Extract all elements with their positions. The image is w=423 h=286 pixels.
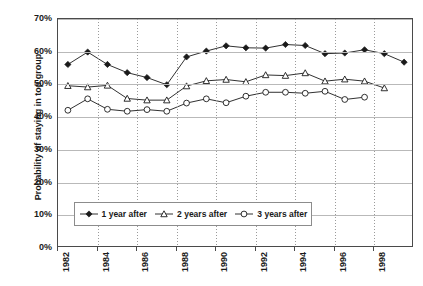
data-point bbox=[65, 107, 71, 113]
y-axis-tick-label: 0% bbox=[22, 242, 52, 252]
y-axis-tick-label: 70% bbox=[22, 13, 52, 23]
data-point bbox=[401, 59, 407, 65]
data-point bbox=[362, 94, 368, 100]
legend-label: 3 years after bbox=[257, 209, 307, 219]
x-axis-tick-label: 1990 bbox=[219, 252, 229, 272]
x-axis-tick-label: 1984 bbox=[101, 252, 111, 272]
x-axis-tick-mark bbox=[97, 247, 98, 251]
open-triangle-icon bbox=[154, 209, 174, 219]
data-point bbox=[302, 42, 308, 48]
data-point bbox=[124, 70, 130, 76]
data-point bbox=[104, 61, 110, 67]
data-point bbox=[263, 45, 269, 51]
y-axis-tick-label: 20% bbox=[22, 177, 52, 187]
data-point bbox=[302, 70, 308, 76]
x-axis-tick-label: 1994 bbox=[298, 252, 308, 272]
x-axis-tick-label: 1992 bbox=[259, 252, 269, 272]
x-axis-tick-label: 1998 bbox=[377, 252, 387, 272]
data-point bbox=[65, 61, 71, 67]
data-point bbox=[223, 43, 229, 49]
x-axis-tick-mark bbox=[373, 247, 374, 251]
filled-diamond-icon bbox=[79, 209, 99, 219]
data-point bbox=[144, 74, 150, 80]
h-gridline bbox=[58, 117, 412, 118]
legend-label: 1 year after bbox=[102, 209, 147, 219]
data-point bbox=[203, 96, 209, 102]
h-gridline bbox=[58, 183, 412, 184]
y-axis-tick-label: 50% bbox=[22, 78, 52, 88]
data-point bbox=[342, 97, 348, 103]
legend-item-2[interactable]: 2 years after bbox=[154, 209, 227, 219]
data-point bbox=[263, 89, 269, 95]
x-axis-tick-label: 1982 bbox=[61, 252, 71, 272]
y-axis-tick-labels: 70%60%50%40%30%20%10%0% bbox=[18, 0, 52, 286]
x-axis-tick-mark bbox=[255, 247, 256, 251]
x-axis-tick-mark bbox=[294, 247, 295, 251]
line-chart: Probability of staying in top group 70%6… bbox=[0, 0, 423, 286]
y-axis-tick-label: 40% bbox=[22, 111, 52, 121]
x-axis-tick-mark bbox=[176, 247, 177, 251]
x-axis-tick-label: 1988 bbox=[180, 252, 190, 272]
x-axis-tick-mark bbox=[215, 247, 216, 251]
y-axis-tick-label: 60% bbox=[22, 46, 52, 56]
legend-item-3[interactable]: 3 years after bbox=[234, 209, 307, 219]
data-point bbox=[243, 93, 249, 99]
data-point bbox=[381, 85, 387, 91]
v-gridline bbox=[335, 19, 336, 246]
data-point bbox=[243, 45, 249, 51]
data-point bbox=[322, 88, 328, 94]
data-point bbox=[164, 108, 170, 114]
x-axis-tick-label: 1996 bbox=[338, 252, 348, 272]
data-point bbox=[183, 54, 189, 60]
open-circle-icon bbox=[234, 209, 254, 219]
v-gridline bbox=[374, 19, 375, 246]
legend-label: 2 years after bbox=[177, 209, 227, 219]
data-point bbox=[124, 108, 130, 114]
h-gridline bbox=[58, 150, 412, 151]
data-point bbox=[85, 96, 91, 102]
data-point bbox=[144, 107, 150, 113]
data-point bbox=[282, 41, 288, 47]
x-axis-tick-mark bbox=[57, 247, 58, 251]
x-axis-tick-label: 1986 bbox=[140, 252, 150, 272]
data-point bbox=[184, 100, 190, 106]
series-line bbox=[68, 45, 404, 85]
h-gridline bbox=[58, 19, 412, 20]
y-axis-tick-label: 10% bbox=[22, 209, 52, 219]
data-point bbox=[342, 76, 348, 82]
h-gridline bbox=[58, 52, 412, 53]
legend-item-1[interactable]: 1 year after bbox=[79, 209, 147, 219]
data-point bbox=[105, 106, 111, 112]
series-2 bbox=[65, 70, 388, 103]
y-axis-tick-label: 30% bbox=[22, 144, 52, 154]
data-point bbox=[302, 90, 308, 96]
chart-legend: 1 year after2 years after3 years after bbox=[74, 202, 312, 226]
x-axis-tick-mark bbox=[136, 247, 137, 251]
data-point bbox=[223, 100, 229, 106]
data-point bbox=[283, 89, 289, 95]
x-axis-tick-mark bbox=[334, 247, 335, 251]
h-gridline bbox=[58, 84, 412, 85]
